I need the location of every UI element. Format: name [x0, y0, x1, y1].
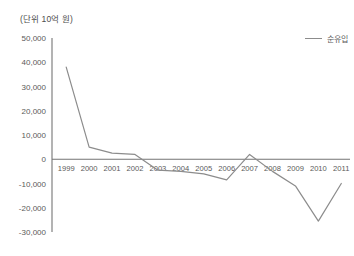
- chart-container: (단위 10억 원) 순유입 50,00040,00030,00020,0001…: [0, 0, 354, 256]
- series-line-net-inflow: [66, 67, 341, 221]
- plot-area: [0, 0, 354, 256]
